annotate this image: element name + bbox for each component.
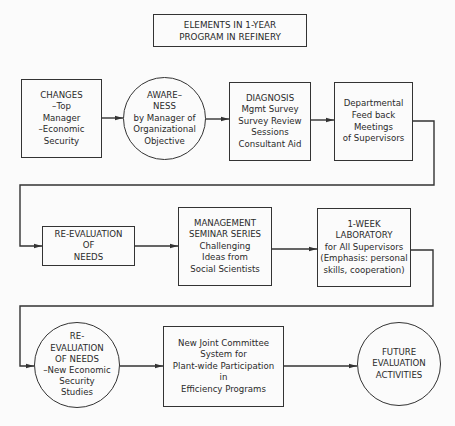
- node-text: OF NEEDS: [55, 354, 99, 365]
- node-text: MANAGEMENT: [194, 218, 256, 230]
- node-text: –Top: [52, 101, 71, 113]
- node-text: in: [220, 372, 228, 384]
- node-text: skills, cooperation): [323, 265, 404, 277]
- node-text: by Manager of: [134, 113, 196, 125]
- node-text: LABORATORY: [336, 230, 393, 242]
- node-text: Ideas from: [202, 252, 248, 264]
- node-text: Meetings: [354, 122, 393, 134]
- node-future-evaluation: FUTURE EVALUATION ACTIVITIES: [357, 322, 441, 406]
- node-text: Security: [44, 136, 79, 148]
- node-text: Sessions: [251, 127, 288, 139]
- node-text: Plant-wide Participation: [173, 361, 274, 373]
- diagram-title: ELEMENTS IN 1-YEAR PROGRAM IN REFINERY: [153, 14, 307, 47]
- node-text: Mgmt Survey: [241, 104, 298, 116]
- node-text: SEMINAR SERIES: [189, 229, 261, 241]
- node-text: ACTIVITIES: [376, 370, 423, 382]
- node-text: Departmental: [344, 98, 404, 110]
- node-text: Consultant Aid: [239, 139, 302, 151]
- node-text: Efficiency Programs: [181, 384, 266, 396]
- node-text: OF: [83, 240, 95, 252]
- node-one-week-laboratory: 1-WEEK LABORATORY for All Supervisors (E…: [317, 208, 411, 287]
- node-text: of Supervisors: [343, 133, 404, 145]
- node-text: Feed back: [352, 110, 396, 122]
- node-text: FUTURE: [382, 347, 416, 359]
- node-text: RE-: [70, 331, 85, 342]
- node-text: RE-EVALUATION: [55, 229, 123, 241]
- node-text: Objective: [144, 136, 185, 148]
- node-text: –New Economic: [43, 365, 110, 376]
- node-text: EVALUATION: [50, 343, 103, 354]
- node-departmental-feedback: Departmental Feed back Meetings of Super…: [334, 82, 413, 161]
- node-text: Survey Review: [238, 116, 301, 128]
- node-text: AWARE–: [147, 90, 182, 102]
- node-text: EVALUATION: [372, 358, 425, 370]
- node-text: System for: [200, 349, 247, 361]
- node-text: (Emphasis: personal: [320, 253, 407, 265]
- node-text: –Economic: [39, 124, 85, 136]
- node-text: Security: [59, 376, 94, 387]
- node-text: Studies: [61, 387, 93, 398]
- node-changes: CHANGES –Top Manager –Economic Security: [21, 79, 102, 158]
- node-text: Social Scientists: [190, 264, 260, 276]
- node-text: New Joint Committee: [178, 338, 269, 350]
- node-text: for All Supervisors: [325, 242, 403, 254]
- node-re-evaluation-needs: RE-EVALUATION OF NEEDS: [42, 226, 135, 266]
- node-diagnosis: DIAGNOSIS Mgmt Survey Survey Review Sess…: [229, 82, 311, 161]
- node-joint-committee: New Joint Committee System for Plant-wid…: [163, 326, 284, 407]
- node-text: Organizational: [133, 124, 196, 136]
- node-text: NESS: [153, 101, 176, 113]
- node-text: Manager: [43, 113, 81, 125]
- node-text: 1-WEEK: [347, 219, 380, 231]
- node-awareness: AWARE– NESS by Manager of Organizational…: [123, 77, 206, 160]
- node-management-seminar: MANAGEMENT SEMINAR SERIES Challenging Id…: [178, 207, 272, 286]
- node-re-evaluation-security: RE- EVALUATION OF NEEDS –New Economic Se…: [34, 322, 120, 408]
- title-line: ELEMENTS IN 1-YEAR: [184, 19, 276, 31]
- node-text: CHANGES: [40, 90, 82, 102]
- node-text: Challenging: [200, 241, 251, 253]
- title-line: PROGRAM IN REFINERY: [179, 31, 281, 43]
- node-text: DIAGNOSIS: [246, 93, 294, 105]
- node-text: NEEDS: [74, 252, 103, 264]
